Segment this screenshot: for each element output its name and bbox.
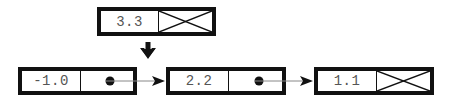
pointer-dot-icon	[106, 77, 115, 86]
new-node-value: 3.3	[101, 11, 159, 32]
list-node-2: 2.2	[166, 67, 286, 95]
pointer-dot-icon	[255, 77, 264, 86]
list-node-1-value: -1.0	[22, 71, 81, 91]
arrow-down-icon	[140, 42, 156, 59]
new-node: 3.3	[97, 7, 216, 36]
list-node-1: -1.0	[18, 67, 137, 95]
list-node-2-pointer	[229, 71, 282, 91]
list-node-1-pointer	[81, 71, 133, 91]
null-pointer-icon	[159, 11, 212, 32]
list-node-3-value: 1.1	[318, 71, 377, 91]
null-pointer-icon	[377, 71, 430, 91]
list-node-2-value: 2.2	[170, 71, 229, 91]
list-node-3: 1.1	[314, 67, 434, 95]
